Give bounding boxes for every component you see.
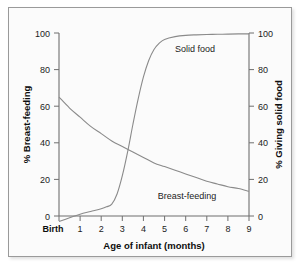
x-axis-ticks: Birth 1 2 3 4 5 6 7 8 9 — [43, 216, 252, 234]
left-tick-label-20: 20 — [40, 175, 50, 185]
chart-svg: 100 80 60 40 20 0 100 80 60 40 20 0 — [9, 8, 291, 256]
x-tick-label-5: 5 — [162, 224, 167, 234]
left-tick-label-60: 60 — [40, 102, 50, 112]
right-tick-label-40: 40 — [258, 138, 268, 148]
x-tick-label-6: 6 — [183, 224, 188, 234]
left-tick-label-40: 40 — [40, 138, 50, 148]
left-tick-label-100: 100 — [35, 29, 50, 39]
series-annotation-solid-food: Solid food — [175, 44, 215, 54]
x-tick-label-2: 2 — [99, 224, 104, 234]
series-annotation-breast-feeding: Breast-feeding — [158, 191, 217, 201]
chart-figure: 100 80 60 40 20 0 100 80 60 40 20 0 — [8, 7, 292, 257]
x-tick-label-3: 3 — [120, 224, 125, 234]
left-axis-ticks: 100 80 60 40 20 0 — [35, 29, 59, 222]
x-axis-title: Age of infant (months) — [103, 240, 204, 251]
x-tick-label-7: 7 — [204, 224, 209, 234]
left-tick-label-80: 80 — [40, 65, 50, 75]
right-tick-label-0: 0 — [258, 212, 263, 222]
y2-axis-title: % Giving solid food — [273, 80, 284, 169]
right-tick-label-80: 80 — [258, 65, 268, 75]
x-tick-label-4: 4 — [141, 224, 146, 234]
right-tick-label-60: 60 — [258, 102, 268, 112]
x-tick-label-birth: Birth — [43, 224, 64, 234]
y-axis-title: % Breast-feeding — [21, 86, 32, 164]
series-line-solid-food — [59, 34, 249, 222]
axes-group — [59, 33, 249, 216]
right-axis-ticks: 100 80 60 40 20 0 — [249, 29, 273, 222]
series-line-breast-feeding — [59, 97, 249, 191]
right-tick-label-100: 100 — [258, 29, 273, 39]
x-tick-label-1: 1 — [78, 224, 83, 234]
left-tick-label-0: 0 — [45, 212, 50, 222]
x-tick-label-9: 9 — [246, 224, 251, 234]
x-tick-label-8: 8 — [225, 224, 230, 234]
right-tick-label-20: 20 — [258, 175, 268, 185]
